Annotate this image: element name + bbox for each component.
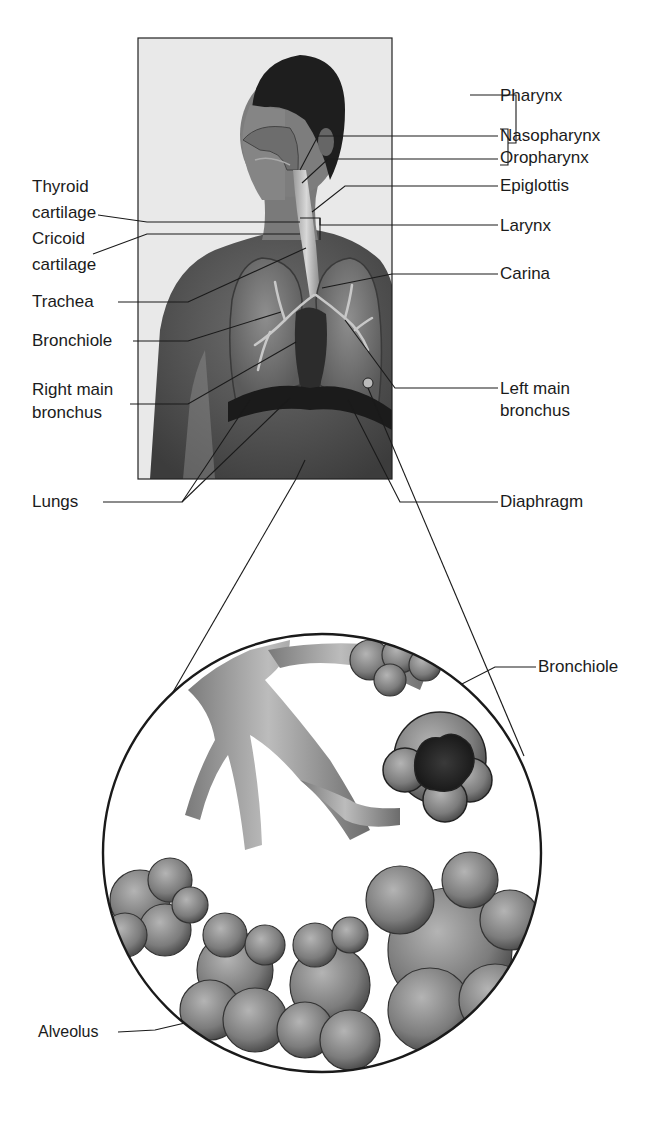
- label-trachea: Trachea: [32, 292, 94, 312]
- respiratory-diagram: Pharynx Nasopharynx Oropharynx Epiglotti…: [0, 0, 659, 1137]
- label-lungs: Lungs: [32, 492, 78, 512]
- label-cricoid-cartilage-2: cartilage: [32, 255, 96, 275]
- label-nasopharynx: Nasopharynx: [500, 126, 600, 146]
- label-cricoid-cartilage-1: Cricoid: [32, 229, 85, 249]
- label-left-main-bronchus-2: bronchus: [500, 401, 570, 421]
- label-epiglottis: Epiglottis: [500, 176, 569, 196]
- label-thyroid-cartilage-1: Thyroid: [32, 177, 89, 197]
- diagram-artwork: [0, 0, 659, 1137]
- label-bronchiole-magnified: Bronchiole: [538, 657, 618, 677]
- label-right-main-bronchus-2: bronchus: [32, 403, 102, 423]
- label-diaphragm: Diaphragm: [500, 492, 583, 512]
- label-right-main-bronchus-1: Right main: [32, 380, 113, 400]
- label-carina: Carina: [500, 264, 550, 284]
- label-pharynx: Pharynx: [500, 86, 562, 106]
- label-thyroid-cartilage-2: cartilage: [32, 203, 96, 223]
- label-left-main-bronchus-1: Left main: [500, 379, 570, 399]
- label-oropharynx: Oropharynx: [500, 148, 589, 168]
- label-alveolus: Alveolus: [38, 1022, 98, 1042]
- torso-photo: [138, 38, 396, 479]
- label-bronchiole: Bronchiole: [32, 331, 112, 351]
- label-larynx: Larynx: [500, 216, 551, 236]
